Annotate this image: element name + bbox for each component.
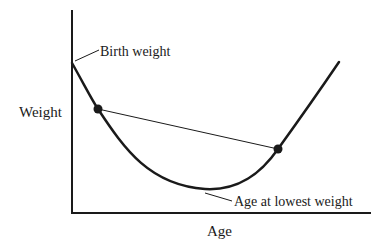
marked-point-2 (274, 145, 283, 154)
y-axis-label: Weight (19, 104, 63, 120)
birth-weight-label: Birth weight (100, 44, 170, 59)
weight-curve (72, 62, 339, 189)
lowest-weight-label: Age at lowest weight (234, 194, 353, 209)
chord-line (98, 109, 278, 149)
marked-point-1 (94, 105, 103, 114)
x-axis-label: Age (207, 223, 232, 239)
weight-age-diagram: Birth weight Age at lowest weight Weight… (0, 0, 382, 249)
birth-weight-leader (75, 50, 99, 61)
lowest-weight-leader (205, 193, 232, 201)
